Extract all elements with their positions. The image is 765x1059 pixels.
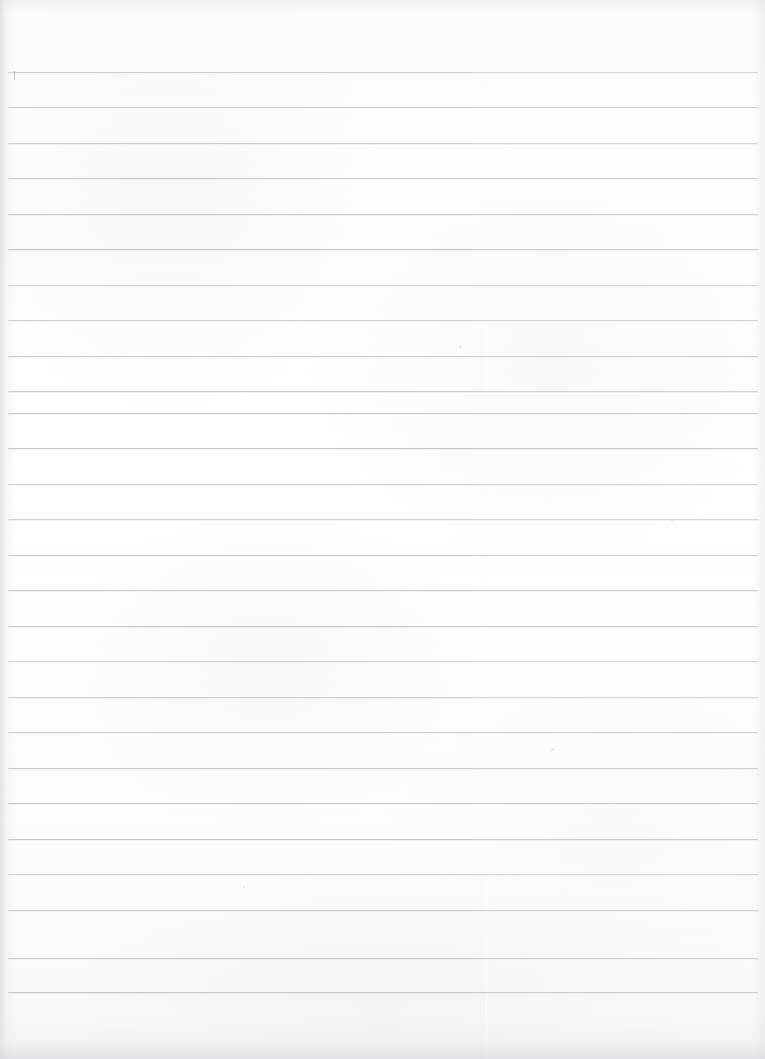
scan-speck	[551, 748, 554, 751]
scan-speck	[671, 520, 673, 522]
bottom-edge-shadow	[0, 1015, 765, 1059]
page-writing-area	[8, 72, 758, 995]
top-edge-shadow	[0, 0, 765, 14]
scan-speck	[243, 886, 245, 888]
scan-speck	[459, 345, 462, 348]
scanned-page	[0, 0, 765, 1059]
